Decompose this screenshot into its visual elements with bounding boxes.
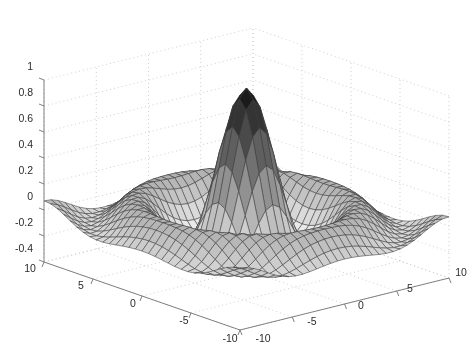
x-tick-label: 10: [24, 263, 36, 274]
surface-plot-canvas: [0, 0, 474, 364]
z-tick-label: 0.2: [18, 165, 33, 176]
y-tick-label: -10: [255, 333, 270, 344]
z-tick-label: 0: [27, 191, 33, 202]
y-tick-label: 10: [455, 267, 467, 278]
x-tick-label: 5: [78, 280, 84, 291]
x-tick-label: -5: [179, 315, 188, 326]
figure-root: 10.80.60.40.20-0.2-0.41050-5-10-10-50510: [0, 0, 474, 364]
y-tick-label: -5: [307, 316, 316, 327]
z-tick-label: -0.2: [15, 217, 33, 228]
y-tick-label: 5: [407, 283, 413, 294]
y-tick-label: 0: [358, 300, 364, 311]
z-tick-label: 1: [27, 61, 33, 72]
z-tick-label: 0.4: [18, 139, 33, 150]
x-tick-label: 0: [130, 298, 136, 309]
z-tick-label: -0.4: [15, 243, 33, 254]
z-tick-label: 0.6: [18, 113, 33, 124]
x-tick-label: -10: [222, 333, 237, 344]
z-tick-label: 0.8: [18, 87, 33, 98]
